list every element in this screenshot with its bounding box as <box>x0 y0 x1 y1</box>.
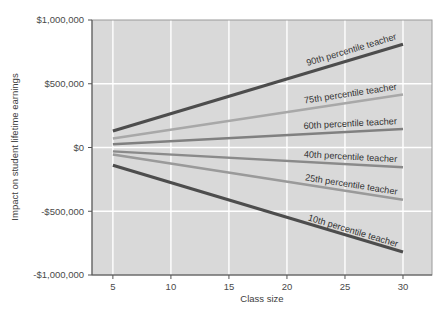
y-tick-label: $1,000,000 <box>36 14 84 25</box>
y-tick-group: $1,000,000$500,000$0-$500,000-$1,000,000 <box>33 14 92 280</box>
x-tick-label: 10 <box>166 281 177 292</box>
x-tick-label: 15 <box>224 281 235 292</box>
x-tick-label: 5 <box>110 281 115 292</box>
y-tick-label: $0 <box>73 142 84 153</box>
x-axis-title: Class size <box>240 293 283 304</box>
x-tick-label: 30 <box>398 281 409 292</box>
y-tick-label: -$1,000,000 <box>33 269 84 280</box>
x-tick-group: 51015202530 <box>110 275 408 292</box>
chart-figure: $1,000,000$500,000$0-$500,000-$1,000,000… <box>0 0 437 316</box>
line-chart: $1,000,000$500,000$0-$500,000-$1,000,000… <box>0 0 437 316</box>
y-tick-label: $500,000 <box>44 78 84 89</box>
y-tick-label: -$500,000 <box>41 206 84 217</box>
x-tick-label: 25 <box>340 281 351 292</box>
y-axis-title: Impact on student lifetime earnings <box>9 73 20 221</box>
x-tick-label: 20 <box>282 281 293 292</box>
